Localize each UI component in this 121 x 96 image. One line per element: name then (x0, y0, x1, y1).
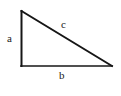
triangle-side-c-line (22, 11, 113, 66)
triangle-label-b: b (59, 70, 65, 81)
triangle-shape (0, 0, 121, 96)
triangle-label-a: a (7, 33, 12, 44)
triangle-label-c: c (61, 19, 66, 30)
right-triangle-figure: a c b (0, 0, 121, 96)
